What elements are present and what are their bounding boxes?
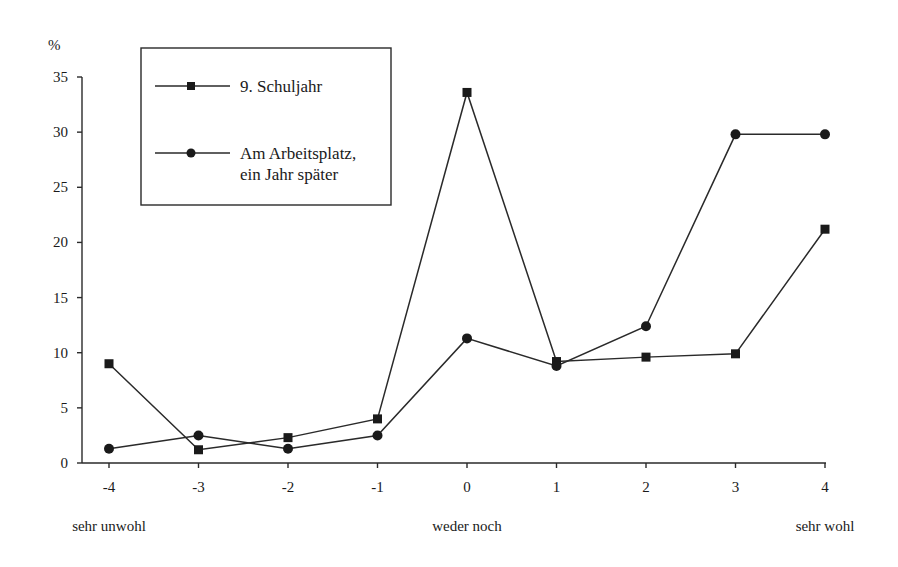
line-chart: % 05101520253035 -4-3-2-101234sehr unwoh… — [0, 0, 898, 567]
x-tick-label: -4 — [103, 479, 116, 495]
y-tick-label: 30 — [53, 124, 68, 140]
data-point-circle — [462, 333, 472, 343]
legend-label: 9. Schuljahr — [240, 77, 322, 96]
data-point-circle — [641, 321, 651, 331]
x-tick-label: 2 — [642, 479, 650, 495]
x-tick-label: -1 — [371, 479, 384, 495]
data-point-square — [463, 88, 472, 97]
x-axis: -4-3-2-101234sehr unwohlweder nochsehr w… — [72, 463, 854, 534]
legend-marker-circle — [187, 149, 196, 158]
y-tick-label: 25 — [53, 179, 68, 195]
y-tick-label: 15 — [53, 290, 68, 306]
y-tick-label: 35 — [53, 69, 68, 85]
x-tick-label: 4 — [821, 479, 829, 495]
data-point-square — [105, 359, 114, 368]
y-tick-label: 5 — [61, 400, 69, 416]
data-point-circle — [731, 129, 741, 139]
x-anchor-label: sehr unwohl — [72, 518, 146, 534]
data-point-square — [373, 414, 382, 423]
x-anchor-label: sehr wohl — [796, 518, 855, 534]
data-point-circle — [104, 444, 114, 454]
x-tick-label: -2 — [282, 479, 295, 495]
legend-marker-square — [187, 82, 195, 90]
data-point-square — [284, 433, 293, 442]
data-point-circle — [552, 361, 562, 371]
y-tick-label: 0 — [61, 455, 69, 471]
legend-label: Am Arbeitsplatz, — [240, 144, 356, 163]
data-point-circle — [373, 430, 383, 440]
data-point-square — [194, 445, 203, 454]
data-point-square — [731, 349, 740, 358]
x-tick-label: 1 — [553, 479, 561, 495]
y-axis: 05101520253035 — [53, 69, 82, 471]
y-axis-unit-label: % — [48, 37, 61, 53]
x-anchor-label: weder noch — [432, 518, 502, 534]
y-tick-label: 10 — [53, 345, 68, 361]
x-tick-label: 0 — [463, 479, 471, 495]
x-tick-label: -3 — [192, 479, 205, 495]
legend-label: ein Jahr später — [240, 165, 339, 184]
data-point-circle — [820, 129, 830, 139]
data-point-square — [642, 353, 651, 362]
data-point-circle — [283, 444, 293, 454]
data-point-circle — [194, 430, 204, 440]
y-tick-label: 20 — [53, 234, 68, 250]
data-point-square — [821, 225, 830, 234]
legend: 9. SchuljahrAm Arbeitsplatz,ein Jahr spä… — [141, 48, 391, 205]
x-tick-label: 3 — [732, 479, 740, 495]
